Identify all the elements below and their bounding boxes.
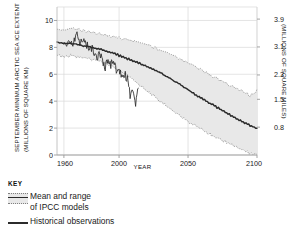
y-tick-left-6: 6 [31,70,53,79]
sea-ice-extent-chart: SEPTEMBER MINIMUM ARCTIC SEA ICE EXTENT … [0,0,305,234]
x-axis-title-text: YEAR [134,163,152,170]
y-axis-left-title-line1: SEPTEMBER MINIMUM ARCTIC SEA ICE EXTENT [13,3,22,152]
y-tick-right-3.1: 3.1 [262,42,284,51]
y-axis-left-title-line2: (MILLIONS OF SQUARE KM) [22,67,31,152]
y-tick-right-0.8: 0.8 [262,123,284,132]
legend-item-models-label-line1: Mean and range [30,191,91,202]
legend-title: KEY [8,180,208,187]
x-tick-2050: 2050 [177,159,199,168]
y-tick-left-4: 4 [31,97,53,106]
legend-swatch-band-wrap [8,191,30,204]
x-tick-2100: 2100 [243,159,265,168]
y-tick-right-3.9: 3.9 [262,15,284,24]
chart-legend: KEY Mean and range of IPCC models Histor… [8,180,208,227]
legend-item-observations: Historical observations [8,216,208,227]
y-tick-left-10: 10 [31,16,53,25]
legend-item-models-label-line2: of IPCC models [30,202,91,213]
legend-item-models-label: Mean and range of IPCC models [30,191,91,212]
y-tick-right-1.5: 1.5 [262,95,284,104]
legend-item-observations-label: Historical observations [30,216,114,227]
x-tick-1960: 1960 [54,159,76,168]
x-tick-2000: 2000 [108,159,130,168]
y-tick-left-2: 2 [31,124,53,133]
legend-item-models: Mean and range of IPCC models [8,191,208,212]
line-swatch-icon [8,218,28,227]
y-tick-right-2.3: 2.3 [262,70,284,79]
legend-swatch-line-wrap [8,216,30,227]
band-swatch-icon [8,193,28,204]
y-tick-left-0: 0 [31,151,53,160]
y-tick-left-8: 8 [31,43,53,52]
